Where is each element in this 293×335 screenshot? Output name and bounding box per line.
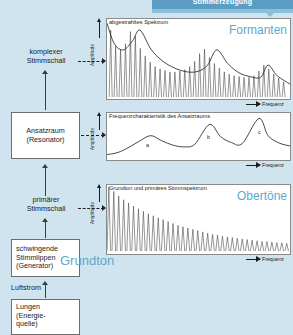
flow-arrow-head-icon bbox=[42, 70, 48, 74]
chart2-x-axis: Frequenz bbox=[246, 162, 284, 168]
chart3-title: Grundton und primäres Stimmspektrum bbox=[109, 185, 207, 191]
flow-arrow-stem bbox=[45, 168, 46, 196]
chart2-peak-label-a: a bbox=[146, 142, 149, 148]
chart2-y-axis-stem bbox=[99, 116, 100, 130]
banner-notch-triangle-icon bbox=[262, 9, 278, 17]
flow-label-line: Stimmschall bbox=[14, 57, 78, 66]
chart2-peak-label-c: c bbox=[258, 129, 261, 135]
flow-arrow-stem bbox=[45, 222, 46, 238]
flow-arrow-stem bbox=[45, 285, 46, 298]
chart2-x-axis-label: Frequenz bbox=[262, 162, 284, 168]
flow-label-komplexer-stimmschall: komplexer Stimmschall bbox=[14, 48, 78, 65]
chart-frequenzcharakteristik bbox=[106, 112, 291, 161]
flow-arrow-head-icon bbox=[42, 218, 48, 222]
chart3-y-axis-arrow-icon bbox=[97, 184, 101, 188]
chart3-x-axis: Frequenz bbox=[246, 256, 284, 262]
chart3-x-axis-arrow-icon bbox=[246, 259, 260, 260]
flow-arrow-head-icon bbox=[42, 164, 48, 168]
chart1-x-axis: Frequenz bbox=[246, 101, 284, 107]
flow-box-lungen[interactable]: Lungen (Energie- quelle) bbox=[11, 299, 80, 335]
chart2-y-axis-arrow-icon bbox=[97, 112, 101, 116]
chart2-svg bbox=[107, 113, 290, 160]
keyword-grundton: Grundton bbox=[60, 253, 114, 268]
chart1-x-axis-arrow-icon bbox=[246, 104, 260, 105]
chart2-x-axis-arrow-icon bbox=[246, 165, 260, 166]
chart3-y-axis-label: Amplitude bbox=[90, 188, 95, 224]
chart1-title: abgestrahltes Spektrum bbox=[109, 19, 168, 25]
chart2-y-axis-label: Amplitude bbox=[90, 116, 95, 150]
chart2-peak-label-b: b bbox=[207, 134, 210, 140]
flow-label-primaerer-stimmschall: primärer Stimmschall bbox=[14, 196, 78, 213]
chart1-y-axis-stem bbox=[99, 22, 100, 38]
chart3-x-axis-label: Frequenz bbox=[262, 256, 284, 262]
chart3-y-axis-stem bbox=[99, 188, 100, 202]
chart1-y-axis-arrow-icon bbox=[97, 18, 101, 22]
flow-label-luftstrom: Luftstrom bbox=[11, 284, 41, 293]
chart1-x-axis-label: Frequenz bbox=[262, 101, 284, 107]
chart1-y-axis-label: Amplitude bbox=[90, 22, 95, 66]
flow-arrow-head-icon bbox=[42, 281, 48, 285]
flow-arrow-stem bbox=[45, 74, 46, 110]
flow-box-ansatzraum[interactable]: Ansatzraum (Resonator) bbox=[11, 112, 80, 159]
flow-box-line: (Resonator) bbox=[27, 136, 65, 145]
keyword-formanten: Formanten bbox=[229, 23, 287, 37]
keyword-obertoene: Obertöne bbox=[237, 189, 287, 203]
flow-label-line: Stimmschall bbox=[14, 205, 78, 214]
chart2-title: Frequenzcharakteristik des Ansatzraums bbox=[109, 113, 210, 119]
banner-title: Stimmerzeugung bbox=[152, 0, 293, 5]
flow-box-line: quelle) bbox=[16, 320, 75, 329]
banner: Stimmerzeugung bbox=[152, 0, 293, 9]
